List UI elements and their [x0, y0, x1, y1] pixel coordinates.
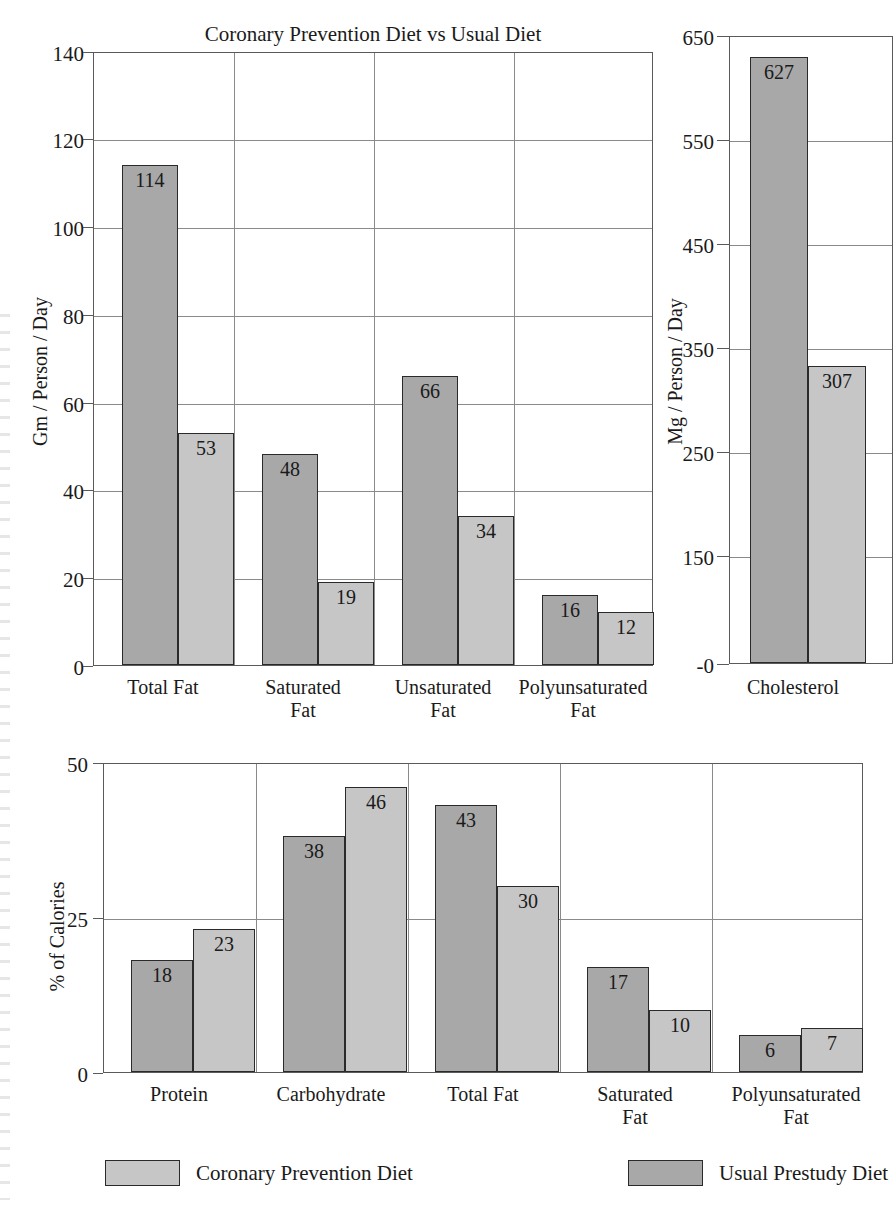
bar-value-label: 53 [179, 438, 233, 458]
y-tick-label: 20 [14, 570, 84, 591]
y-tick-mark [93, 763, 103, 764]
y-tick-mark [717, 140, 729, 141]
bar-value-label: 46 [346, 792, 406, 812]
gridline [234, 53, 235, 665]
bar-usual: 6 [739, 1035, 801, 1072]
bar-value-label: 34 [459, 521, 513, 541]
bar-value-label: 6 [740, 1040, 800, 1060]
y-tick-mark [83, 227, 93, 228]
x-category-label: Polyunsaturated Fat [508, 676, 658, 722]
y-tick-label: 250 [652, 444, 714, 465]
y-tick-label: 80 [14, 307, 84, 328]
legend-swatch-usual [628, 1160, 703, 1186]
bar-prevent: 34 [458, 516, 514, 665]
y-tick-mark [83, 403, 93, 404]
bar-prevent: 19 [318, 582, 374, 665]
y-axis-title-percent-calories: % of Calories [46, 852, 69, 1022]
bar-prevent: 307 [808, 366, 866, 663]
x-category-label-line1: Carbohydrate [255, 1083, 407, 1106]
x-category-label-line2: Fat [233, 699, 373, 722]
bar-value-label: 66 [403, 381, 457, 401]
bar-value-label: 43 [436, 810, 496, 830]
bar-usual: 17 [587, 967, 649, 1072]
bar-value-label: 23 [194, 934, 254, 954]
x-category-label-line1: Saturated [233, 676, 373, 699]
gridline [94, 140, 652, 141]
y-tick-label: 650 [652, 28, 714, 49]
bar-prevent: 53 [178, 433, 234, 665]
plot-area-fat-grams: 114 53 48 19 66 34 16 [93, 52, 653, 666]
gridline [514, 53, 515, 665]
x-category-label-line1: Saturated [559, 1083, 711, 1106]
y-tick-label: 25 [36, 910, 88, 931]
plot-area-cholesterol: 627 307 [729, 36, 893, 664]
y-tick-mark [717, 348, 729, 349]
y-tick-label: 0 [14, 658, 84, 679]
legend-label: Usual Prestudy Diet [719, 1163, 888, 1184]
bar-usual: 48 [262, 454, 318, 665]
x-category-label: Unsaturated Fat [373, 676, 513, 722]
bar-value-label: 38 [284, 841, 344, 861]
y-tick-mark [717, 556, 729, 557]
bar-prevent: 30 [497, 886, 559, 1072]
legend-item-coronary-prevention-diet: Coronary Prevention Diet [105, 1160, 413, 1186]
bar-value-label: 48 [263, 459, 317, 479]
y-axis-title-fat-grams: Gm / Person / Day [29, 272, 52, 472]
chart-fat-grams: Coronary Prevention Diet vs Usual Diet G… [0, 0, 680, 735]
gridline [374, 53, 375, 665]
y-tick-mark [83, 315, 93, 316]
y-tick-mark [717, 36, 729, 37]
bar-usual: 38 [283, 836, 345, 1072]
x-category-label-line2: Fat [711, 1106, 881, 1129]
bar-value-label: 10 [650, 1015, 710, 1035]
x-category-label: Saturated Fat [559, 1083, 711, 1129]
bar-usual: 43 [435, 805, 497, 1072]
x-category-label-line2: Fat [508, 699, 658, 722]
x-category-label: Total Fat [407, 1083, 559, 1106]
gridline [712, 764, 713, 1072]
y-tick-mark [83, 52, 93, 53]
y-tick-mark [83, 490, 93, 491]
y-tick-label: 150 [652, 548, 714, 569]
bar-prevent: 12 [598, 612, 654, 665]
x-category-label-line1: Cholesterol [713, 676, 873, 699]
y-tick-mark [717, 244, 729, 245]
bar-usual: 18 [131, 960, 193, 1072]
x-category-label: Polyunsaturated Fat [711, 1083, 881, 1129]
x-category-label: Saturated Fat [233, 676, 373, 722]
gridline [560, 764, 561, 1072]
bar-value-label: 18 [132, 965, 192, 985]
plot-area-percent-calories: 18 23 38 46 43 30 17 1 [103, 763, 863, 1073]
legend: Coronary Prevention Diet Usual Prestudy … [0, 1160, 893, 1200]
legend-item-usual-prestudy-diet: Usual Prestudy Diet [628, 1160, 888, 1186]
chart-percent-calories: % of Calories 50 25 0 18 23 38 [0, 745, 893, 1155]
bar-value-label: 17 [588, 972, 648, 992]
bar-prevent: 10 [649, 1010, 711, 1072]
x-category-label-line1: Polyunsaturated [508, 676, 658, 699]
bar-value-label: 7 [802, 1033, 862, 1053]
x-category-label-line1: Total Fat [407, 1083, 559, 1106]
y-tick-label: 100 [14, 219, 84, 240]
x-category-label-line1: Unsaturated [373, 676, 513, 699]
y-tick-label: 550 [652, 132, 714, 153]
y-tick-label: 120 [14, 131, 84, 152]
gridline [408, 764, 409, 1072]
x-category-label: Protein [103, 1083, 255, 1106]
x-category-label-line2: Fat [373, 699, 513, 722]
bar-usual: 16 [542, 595, 598, 665]
bar-value-label: 627 [751, 62, 807, 82]
x-category-label-line2: Fat [559, 1106, 711, 1129]
x-category-label-line1: Protein [103, 1083, 255, 1106]
bar-value-label: 114 [123, 170, 177, 190]
bar-prevent: 46 [345, 787, 407, 1072]
y-tick-mark [83, 578, 93, 579]
figure-title: Coronary Prevention Diet vs Usual Diet [93, 22, 653, 47]
bar-value-label: 30 [498, 891, 558, 911]
chart-cholesterol: Mg / Person / Day 650 550 450 350 250 15… [655, 0, 893, 735]
bar-usual: 627 [750, 57, 808, 663]
x-category-label: Total Fat [93, 676, 233, 699]
y-tick-label: 50 [36, 755, 88, 776]
figure-root: Coronary Prevention Diet vs Usual Diet G… [0, 0, 893, 1226]
bar-usual: 114 [122, 165, 178, 665]
bar-prevent: 23 [193, 929, 255, 1072]
